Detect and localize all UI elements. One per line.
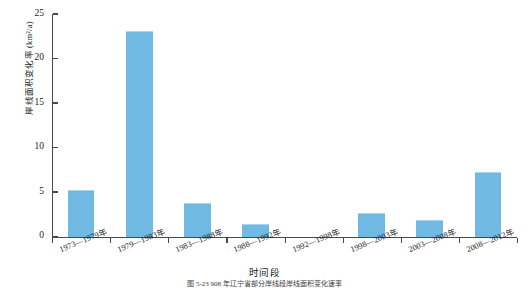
y-tick-label: 0 [39, 230, 44, 240]
x-tick-mark [168, 238, 169, 243]
x-axis-title: 时间段 [0, 265, 529, 279]
y-tick-mark [53, 236, 58, 237]
plot-area: 0510152025 [52, 14, 517, 238]
y-tick-label: 15 [35, 97, 45, 107]
bar [126, 31, 153, 237]
y-tick-mark [53, 147, 58, 148]
x-tick-mark [401, 238, 402, 243]
x-tick-mark [343, 238, 344, 243]
y-tick-mark [53, 102, 58, 103]
x-tick-mark [459, 238, 460, 243]
y-tick-mark [53, 13, 58, 14]
y-tick-label: 25 [35, 8, 45, 18]
y-tick-label: 10 [35, 141, 45, 151]
figure-caption: 图 5-23 908 年辽宁省部分岸线段岸线面积变化速率 [0, 278, 529, 288]
y-tick-label: 20 [35, 52, 45, 62]
y-tick-mark [53, 58, 58, 59]
y-axis-line [52, 14, 53, 238]
bar [475, 172, 502, 236]
y-tick-mark [53, 191, 58, 192]
x-tick-mark [226, 238, 227, 243]
x-tick-mark [517, 238, 518, 243]
x-tick-mark [285, 238, 286, 243]
y-tick-label: 5 [39, 186, 44, 196]
x-tick-mark [110, 238, 111, 243]
x-tick-mark [52, 238, 53, 243]
y-axis-title: 岸线面积变化率 (km²/a) [22, 0, 34, 148]
